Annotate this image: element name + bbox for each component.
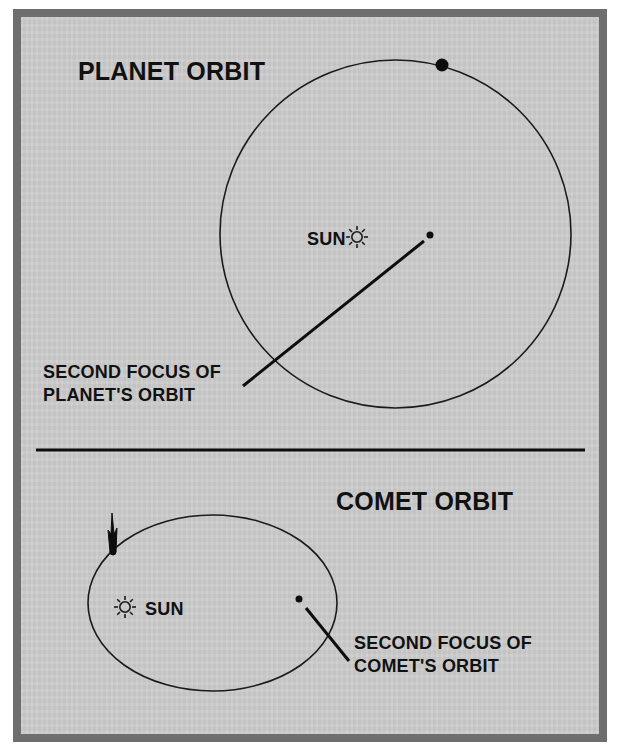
planet-orbit-title: PLANET ORBIT xyxy=(78,59,265,84)
sun-icon xyxy=(346,226,368,248)
comet-orbit-title: COMET ORBIT xyxy=(336,489,513,514)
planet-orbit-path xyxy=(220,60,571,408)
planet-focus-label-line2: PLANET'S ORBIT xyxy=(43,384,221,407)
comet-focus-label-line2: COMET'S ORBIT xyxy=(354,655,532,678)
comet-orbit-path xyxy=(88,515,337,691)
sun-icon xyxy=(114,596,136,618)
comet-focus-label-line1: SECOND FOCUS OF xyxy=(354,632,532,655)
focus-dot-icon xyxy=(427,232,434,239)
planet-sun-label: SUN xyxy=(307,228,346,251)
focus-leader-line xyxy=(243,241,424,386)
planet-focus-label: SECOND FOCUS OF PLANET'S ORBIT xyxy=(43,361,221,407)
focus-dot-icon xyxy=(296,596,303,603)
comet-icon xyxy=(108,513,117,555)
focus-leader-line xyxy=(306,608,349,661)
planet-focus-label-line1: SECOND FOCUS OF xyxy=(43,361,221,384)
comet-sun-label: SUN xyxy=(145,598,184,621)
comet-focus-label: SECOND FOCUS OF COMET'S ORBIT xyxy=(354,632,532,678)
planet-dot-icon xyxy=(436,59,449,72)
